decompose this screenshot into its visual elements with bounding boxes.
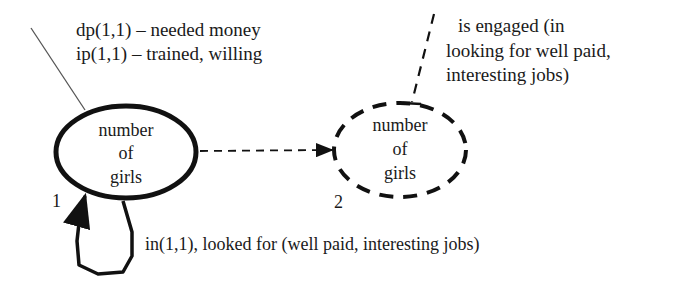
node-2-index: 2 [334, 192, 343, 212]
node-1-index: 1 [52, 191, 61, 211]
annotation-connector-right-tick [403, 103, 421, 104]
node-1-label-line-3: girls [110, 167, 142, 187]
transition-edge-dashed [200, 150, 332, 151]
node-2-label-line-3: girls [384, 163, 416, 183]
annotation-top-left-line-1: dp(1,1) – needed money [76, 19, 261, 41]
node-1-label-line-2: of [119, 143, 134, 163]
annotation-connector-left [31, 28, 85, 110]
diagram-canvas: dp(1,1) – needed money ip(1,1) – trained… [0, 0, 692, 291]
annotation-top-right-line-3: interesting jobs) [446, 64, 569, 86]
annotation-top-right-line-1: is engaged (in [458, 15, 565, 37]
annotation-top-left-line-2: ip(1,1) – trained, willing [76, 43, 263, 65]
loop-annotation: in(1,1), looked for (well paid, interest… [145, 234, 479, 255]
node-2-label-line-1: number [373, 115, 428, 135]
annotation-top-right-line-2: looking for well paid, [446, 40, 611, 61]
node-1-label-line-1: number [99, 120, 154, 140]
annotation-connector-right [412, 14, 434, 102]
node-2-label-line-2: of [393, 139, 408, 159]
self-loop-edge [77, 196, 132, 274]
